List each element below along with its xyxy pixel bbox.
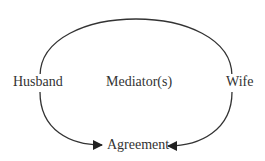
wife-label: Wife [225,74,254,90]
wife-to-agreement-arrow [168,92,232,146]
husband-label: Husband [12,74,64,90]
agreement-label: Agreement [106,137,170,153]
mediators-label: Mediator(s) [105,74,173,90]
mediation-diagram: Husband Mediator(s) Wife Agreement [0,0,265,161]
husband-wife-arc [40,19,232,76]
husband-to-agreement-arrow [40,92,102,145]
